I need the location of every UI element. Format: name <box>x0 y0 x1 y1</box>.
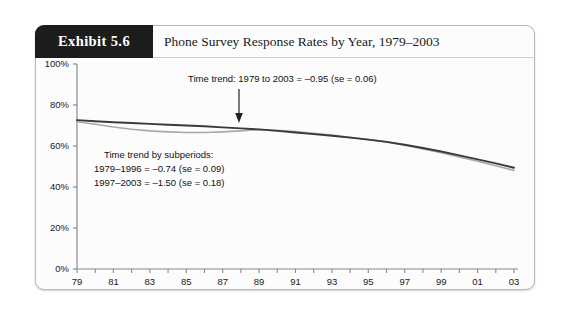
subperiod-2-annotation: 1997–2003 = –1.50 (se = 0.18) <box>94 177 224 188</box>
y-axis-tick-label: 80% <box>50 99 70 110</box>
y-axis-tick-label: 0% <box>55 263 69 274</box>
x-axis-tick-label: 95 <box>363 276 374 287</box>
x-axis-tick-label: 91 <box>290 276 301 287</box>
x-axis-tick-label: 01 <box>472 276 483 287</box>
x-axis-tick-label: 97 <box>399 276 410 287</box>
x-axis-tick-label: 93 <box>327 276 338 287</box>
y-axis-tick-label: 20% <box>50 222 70 233</box>
y-axis-tick-label: 40% <box>50 181 70 192</box>
exhibit-number-badge: Exhibit 5.6 <box>35 25 153 58</box>
screenshot-root: Exhibit 5.6 Phone Survey Response Rates … <box>0 0 566 311</box>
subperiod-heading-annotation: Time trend by subperiods: <box>104 149 213 160</box>
exhibit-panel: Exhibit 5.6 Phone Survey Response Rates … <box>35 25 535 290</box>
exhibit-header: Exhibit 5.6 Phone Survey Response Rates … <box>36 26 534 58</box>
subperiod-1-annotation: 1979–1996 = –0.74 (se = 0.09) <box>94 163 224 174</box>
y-axis-tick-label: 100% <box>45 58 70 69</box>
response-rate-line-chart: 100%80%60%40%20%0%7981838587899193959799… <box>36 58 536 290</box>
chart-plot-area: 100%80%60%40%20%0%7981838587899193959799… <box>36 58 534 290</box>
x-axis-tick-label: 99 <box>436 276 447 287</box>
y-axis-tick-label: 60% <box>50 140 70 151</box>
x-axis-tick-label: 85 <box>181 276 192 287</box>
x-axis-tick-label: 83 <box>145 276 156 287</box>
overall-trend-annotation: Time trend: 1979 to 2003 = –0.95 (se = 0… <box>188 73 377 84</box>
x-axis-tick-label: 89 <box>254 276 265 287</box>
x-axis-tick-label: 87 <box>217 276 228 287</box>
series-line-response-rate-dark <box>77 120 514 168</box>
down-arrow-annotation <box>235 89 243 123</box>
x-axis-tick-label: 03 <box>509 276 520 287</box>
x-axis-tick-label: 81 <box>108 276 119 287</box>
exhibit-title: Phone Survey Response Rates by Year, 197… <box>164 26 439 58</box>
x-axis-tick-label: 79 <box>72 276 83 287</box>
